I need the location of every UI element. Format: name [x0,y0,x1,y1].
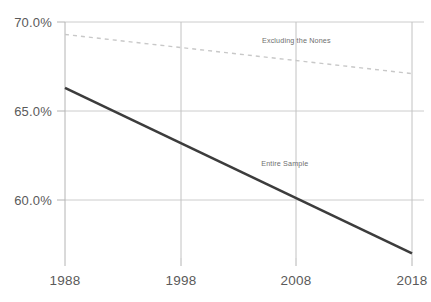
y-tick-label-70: 70.0% [0,15,52,30]
x-tick-label-1988: 1988 [49,273,80,288]
chart-plot-area [0,0,431,302]
series-line-excluding-the-nones [65,34,412,73]
y-tick-label-60: 60.0% [0,193,52,208]
series-label-entire-sample: Entire Sample [261,158,308,167]
vertical-gridlines [65,22,412,258]
x-tick-label-1998: 1998 [165,273,196,288]
y-tick-marks [57,22,65,200]
y-tick-label-65: 65.0% [0,104,52,119]
x-tick-marks [65,258,412,266]
x-tick-label-2018: 2018 [396,273,427,288]
chart-container: 70.0% 65.0% 60.0% 1988 1998 2008 2018 Ex… [0,0,431,302]
series-label-excluding-the-nones: Excluding the Nones [262,35,331,44]
series-line-entire-sample [65,88,412,254]
x-tick-label-2008: 2008 [280,273,311,288]
